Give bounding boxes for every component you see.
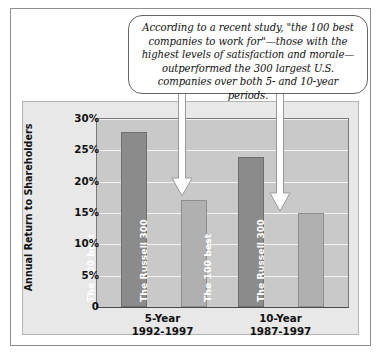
bar-label-text: The Russell 300 (137, 219, 148, 302)
y-axis-title-label: Annual Return to Shareholders (23, 123, 34, 291)
y-axis-tick-label: 10% (51, 237, 99, 249)
x-axis-group-label: 5-Year1992-1997 (108, 312, 218, 338)
bar-label-text: The Russell 300 (255, 219, 266, 302)
y-axis-tick-label: 5% (51, 269, 99, 281)
gridline (97, 119, 348, 120)
y-axis-title: Annual Return to Shareholders (20, 112, 37, 302)
y-axis-tick-label: 25% (51, 143, 99, 155)
y-axis-tick-label: 30% (51, 112, 99, 124)
x-axis-group-label-line1: 5-Year (108, 312, 218, 325)
plot-area: The 100 bestThe Russell 300The 100 bestT… (96, 118, 349, 308)
callout-balloon: According to a recent study, "the 100 be… (128, 15, 368, 94)
figure: Annual Return to Shareholders The 100 be… (0, 0, 383, 364)
y-axis-tick-label: 20% (51, 175, 99, 187)
y-axis-tick-label: 0 (51, 300, 99, 312)
bar-label: The Russell 300 (270, 291, 353, 302)
x-axis-group-label-line2: 1992-1997 (108, 325, 218, 338)
arrow-to-russell-10year (268, 92, 292, 215)
x-axis-group-label-line1: 10-Year (225, 312, 335, 325)
y-axis-tick-label: 15% (51, 206, 99, 218)
arrow-to-russell-5year (170, 92, 194, 200)
bar: The Russell 300 (298, 213, 324, 307)
x-axis-group-label-line2: 1987-1997 (225, 325, 335, 338)
callout-text: According to a recent study, "the 100 be… (139, 21, 357, 103)
bar-label-text: The 100 best (202, 234, 213, 302)
x-axis-group-label: 10-Year1987-1997 (225, 312, 335, 338)
